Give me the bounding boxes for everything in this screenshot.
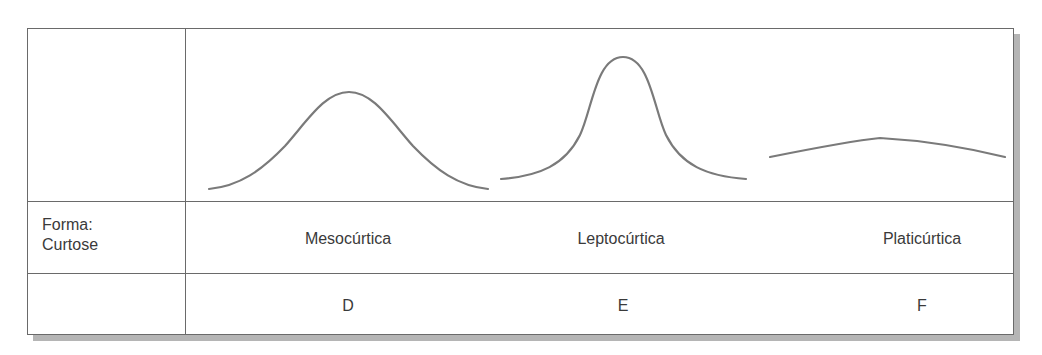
label-leptocurtica: Leptocúrtica xyxy=(577,229,664,249)
row-divider-curves xyxy=(28,201,1013,202)
row-divider-labels xyxy=(28,273,1013,274)
row-header-forma-curtose: Forma: Curtose xyxy=(42,215,98,255)
kurtosis-table xyxy=(27,28,1014,335)
column-divider xyxy=(185,29,186,334)
letter-f: F xyxy=(917,296,927,316)
label-mesocurtica: Mesocúrtica xyxy=(305,229,391,249)
row-header-line2: Curtose xyxy=(42,235,98,255)
row-header-line1: Forma: xyxy=(42,215,98,235)
letter-d: D xyxy=(342,296,354,316)
label-platicurtica: Platicúrtica xyxy=(883,229,961,249)
letter-e: E xyxy=(618,296,629,316)
